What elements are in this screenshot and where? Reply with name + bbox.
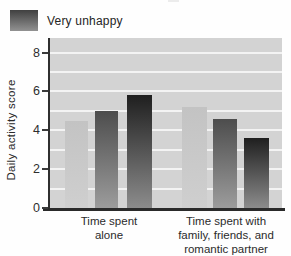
plot-area <box>50 38 282 208</box>
legend-swatch-very-unhappy <box>10 10 38 31</box>
y-tick-label-4: 4 <box>22 122 40 138</box>
bar-light-gray-bar-group2 <box>182 107 207 208</box>
bar-chart-figure: Very unhappy Daily activity score 02468T… <box>0 0 291 256</box>
y-tick-4 <box>42 129 48 131</box>
y-tick-label-0: 0 <box>22 200 40 216</box>
bar-medium-gray-bar-group1 <box>95 111 118 208</box>
y-tick-2 <box>42 168 48 170</box>
y-tick-8 <box>42 52 48 54</box>
y-tick-0 <box>42 207 48 209</box>
cropped-edge-artifact <box>168 0 179 2</box>
x-category-label-2: Time spent with family, friends, and rom… <box>160 214 291 256</box>
gridline-6 <box>50 90 282 92</box>
bar-dark-gray-bar-very-unhappy-group2 <box>244 138 269 208</box>
y-axis-title: Daily activity score <box>5 79 17 180</box>
y-tick-6 <box>42 90 48 92</box>
bar-light-gray-bar-group1 <box>65 121 88 208</box>
y-axis-line <box>48 38 50 210</box>
gridline-7 <box>50 71 282 73</box>
y-tick-label-2: 2 <box>22 161 40 177</box>
x-category-label-1: Time spent alone <box>54 214 164 242</box>
bar-dark-gray-bar-very-unhappy-group1 <box>127 95 152 208</box>
legend: Very unhappy <box>10 10 123 31</box>
gridline-5 <box>50 110 282 112</box>
y-tick-label-8: 8 <box>22 45 40 61</box>
bar-medium-gray-bar-group2 <box>213 119 237 208</box>
legend-label: Very unhappy <box>47 14 123 28</box>
x-axis-line <box>43 208 285 211</box>
y-tick-label-6: 6 <box>22 83 40 99</box>
gridline-8 <box>50 52 282 54</box>
